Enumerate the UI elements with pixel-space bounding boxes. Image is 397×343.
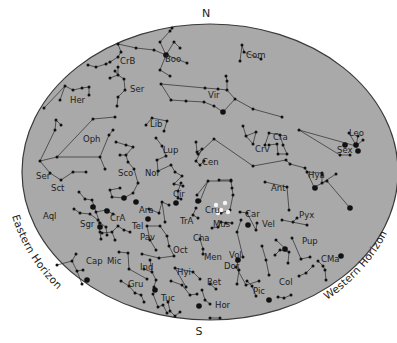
constellation-label-sct: Sct	[51, 183, 65, 193]
star	[99, 156, 102, 159]
star	[137, 182, 140, 185]
star	[283, 297, 286, 300]
star	[78, 191, 81, 194]
bright-star	[97, 224, 103, 230]
star	[275, 239, 278, 242]
star	[232, 194, 235, 197]
bright-star	[196, 303, 202, 309]
star	[111, 196, 114, 199]
star	[174, 315, 177, 318]
star	[169, 310, 172, 313]
bright-star	[220, 109, 226, 115]
star	[281, 116, 284, 119]
star	[236, 283, 239, 286]
constellation-label-oph: Oph	[83, 134, 100, 144]
star	[304, 167, 307, 170]
star	[72, 89, 75, 92]
star	[173, 41, 176, 44]
star	[159, 225, 162, 228]
star	[242, 125, 245, 128]
constellation-label-ret: Ret	[207, 277, 222, 287]
star	[59, 99, 62, 102]
star	[79, 212, 82, 215]
star	[298, 129, 301, 132]
star	[171, 27, 174, 30]
star	[155, 137, 158, 140]
star	[87, 64, 90, 67]
star	[159, 69, 162, 72]
star	[282, 144, 285, 147]
star	[160, 83, 163, 86]
star	[56, 156, 59, 159]
star	[104, 168, 107, 171]
star	[288, 209, 291, 212]
star	[362, 139, 365, 142]
star	[109, 61, 112, 64]
bright-star	[133, 199, 139, 205]
star	[127, 252, 130, 255]
constellation-label-pav: Pav	[140, 232, 155, 242]
star	[218, 179, 221, 182]
constellation-label-ind: Ind	[140, 262, 153, 272]
star	[298, 275, 301, 278]
bright-star	[353, 142, 359, 148]
constellation-label-mus: Mus	[213, 219, 231, 229]
star	[76, 270, 79, 273]
constellation-label-pup: Pup	[302, 236, 318, 246]
constellation-label-pyx: Pyx	[299, 210, 314, 220]
star	[155, 249, 158, 252]
star	[241, 44, 244, 47]
star	[326, 180, 329, 183]
star	[101, 232, 104, 235]
star	[117, 43, 120, 46]
star	[95, 211, 98, 214]
star	[185, 100, 188, 103]
star	[106, 234, 109, 237]
star	[240, 219, 243, 222]
constellation-label-leo: Leo	[349, 128, 364, 138]
constellation-label-mic: Mic	[107, 256, 122, 266]
star	[277, 296, 280, 299]
star	[60, 124, 63, 127]
star	[261, 245, 264, 248]
star	[124, 89, 127, 92]
star	[291, 237, 294, 240]
star	[85, 171, 88, 174]
constellation-label-lup: Lup	[163, 145, 178, 155]
star	[116, 105, 119, 108]
star	[71, 260, 74, 263]
star	[88, 94, 91, 97]
star	[245, 135, 248, 138]
star	[207, 180, 210, 183]
star	[114, 70, 117, 73]
star	[192, 271, 195, 274]
star	[324, 269, 327, 272]
constellation-label-col: Col	[279, 277, 293, 287]
star	[146, 225, 149, 228]
constellation-label-crv: Crv	[255, 144, 269, 154]
star	[114, 239, 117, 242]
star	[114, 116, 117, 119]
star	[203, 101, 206, 104]
star	[117, 74, 120, 77]
star	[305, 272, 308, 275]
star	[245, 284, 248, 287]
star	[201, 148, 204, 151]
constellation-label-cha: Cha	[193, 233, 210, 243]
star	[111, 231, 114, 234]
bright-star	[266, 297, 272, 303]
bright-star	[104, 208, 110, 214]
star	[292, 221, 295, 224]
star	[209, 317, 212, 320]
star	[140, 294, 143, 297]
star	[81, 283, 84, 286]
star	[118, 251, 121, 254]
star	[204, 299, 207, 302]
star	[288, 251, 291, 254]
star	[155, 279, 158, 282]
star	[186, 62, 189, 65]
star	[255, 229, 258, 232]
star	[201, 289, 204, 292]
bright-star	[245, 222, 251, 228]
star	[54, 129, 57, 132]
